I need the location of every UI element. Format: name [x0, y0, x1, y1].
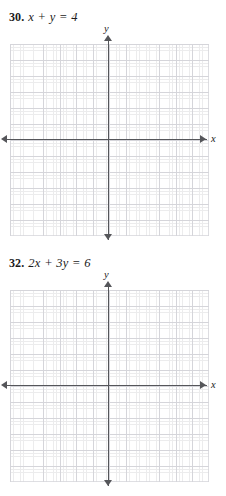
problem-30-number: 30.	[9, 10, 24, 24]
problem-30-equation: x + y = 4	[24, 10, 77, 24]
arrow-left-icon	[1, 135, 7, 143]
x-axis	[6, 139, 207, 140]
x-axis	[6, 385, 207, 386]
arrow-down-icon	[104, 480, 112, 486]
y-axis	[108, 40, 109, 240]
arrow-up-icon	[104, 281, 112, 287]
x-axis-label: x	[211, 134, 216, 144]
problem-32-equation: 2x + 3y = 6	[24, 256, 91, 270]
arrow-left-icon	[1, 381, 7, 389]
y-axis	[108, 286, 109, 486]
arrow-right-icon	[200, 381, 206, 389]
arrow-down-icon	[104, 234, 112, 240]
problem-32-number: 32.	[9, 256, 24, 270]
y-axis-label: y	[104, 270, 109, 280]
x-axis-label: x	[211, 380, 216, 390]
problem-30-heading: 30.x + y = 4	[9, 10, 78, 24]
problem-30-graph: y x	[0, 24, 226, 246]
arrow-up-icon	[104, 35, 112, 41]
problem-32-heading: 32.2x + 3y = 6	[9, 256, 91, 270]
y-axis-label: y	[104, 24, 109, 34]
arrow-right-icon	[200, 135, 206, 143]
problem-32-graph: y x	[0, 270, 226, 492]
